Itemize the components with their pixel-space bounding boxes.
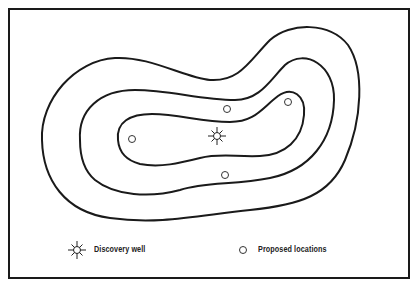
proposed-location-4 bbox=[222, 172, 229, 179]
proposed-location-3 bbox=[129, 136, 136, 143]
discovery-well-icon bbox=[208, 127, 226, 145]
outer-contour bbox=[42, 27, 359, 220]
proposed-location-1 bbox=[224, 106, 231, 113]
legend-discovery-well-label: Discovery well bbox=[94, 244, 145, 254]
proposed-location-2 bbox=[285, 99, 292, 106]
legend-sun-star-icon bbox=[68, 241, 86, 259]
inner-contour bbox=[118, 92, 304, 166]
legend-proposed-locations-label: Proposed locations bbox=[258, 244, 327, 254]
contour-map bbox=[0, 0, 415, 283]
legend-open-circle-icon bbox=[240, 247, 247, 254]
